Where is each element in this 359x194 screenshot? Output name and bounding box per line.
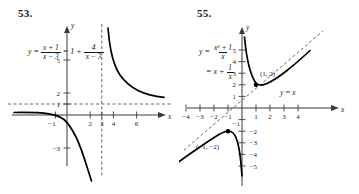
y-tick-label: −3 — [53, 145, 61, 153]
figure-panel-53: 53. y = x + 1 x − 3 = 1 + 4 x − 3 — [0, 0, 179, 194]
y-tick-label: −2 — [250, 128, 258, 136]
y-axis-label: y — [70, 21, 75, 30]
x-tick-label: −4 — [182, 113, 190, 121]
y-tick-label: 4 — [233, 58, 237, 66]
x-tick-label: 4 — [112, 120, 116, 128]
y-tick-label: −1 — [233, 120, 241, 128]
y-tick-label: 3 — [233, 70, 237, 78]
x-tick-label: 6 — [135, 120, 139, 128]
y-tick-label: 5 — [233, 47, 237, 55]
x-tick-label: 2 — [88, 120, 92, 128]
x-tick-label: −2 — [210, 113, 218, 121]
curve-positive-branch — [245, 37, 311, 85]
x-axis-arrowhead — [158, 112, 166, 118]
graph-55: x y −4 −3 −2 −1 1 2 3 4 — [179, 0, 359, 194]
y-tick-label: 2 — [57, 90, 61, 98]
point-label-1-2: (1, 2) — [260, 70, 276, 78]
y-axis-arrowhead — [239, 27, 245, 34]
figure-panel-55: 55. y = x² + 1 x = x + 1 x — [179, 0, 359, 194]
curve-right-branch — [108, 28, 164, 97]
x-tick-label: 2 — [268, 113, 272, 121]
x-tick-label: −1 — [48, 120, 56, 128]
point-label-neg1-neg2: (−1, −2) — [196, 143, 220, 151]
x-axis-arrowhead — [331, 105, 339, 111]
curve-negative-branch — [179, 131, 242, 176]
x-tick-label: −3 — [196, 113, 204, 121]
x-axis-label: x — [167, 112, 172, 121]
x-tick-label: 3 — [100, 120, 104, 128]
y-tick-label: 5 — [57, 57, 61, 65]
y-tick-label: 1 — [57, 101, 61, 109]
slant-asymptote-label: y = x — [279, 88, 296, 97]
y-tick-label: 2 — [233, 81, 237, 89]
x-axis-label: x — [340, 105, 345, 114]
x-tick-label: 1 — [254, 113, 258, 121]
figure-page: 53. y = x + 1 x − 3 = 1 + 4 x − 3 — [0, 0, 359, 194]
y-tick-label: −3 — [250, 139, 258, 147]
point-marker-neg1-neg2 — [226, 129, 231, 134]
y-tick-label: −4 — [250, 151, 258, 159]
y-axis-label: y — [245, 23, 250, 32]
x-tick-label: 4 — [296, 113, 300, 121]
x-tick-label: 3 — [282, 113, 286, 121]
y-axis-arrowhead — [64, 26, 70, 33]
point-marker-1-2 — [254, 83, 259, 88]
y-tick-label: −5 — [250, 163, 258, 171]
y-tick-label: 1 — [233, 93, 237, 101]
x-tick-label: −1 — [224, 113, 232, 121]
graph-53: x y −1 2 3 4 6 5 2 1 −3 — [0, 0, 179, 194]
